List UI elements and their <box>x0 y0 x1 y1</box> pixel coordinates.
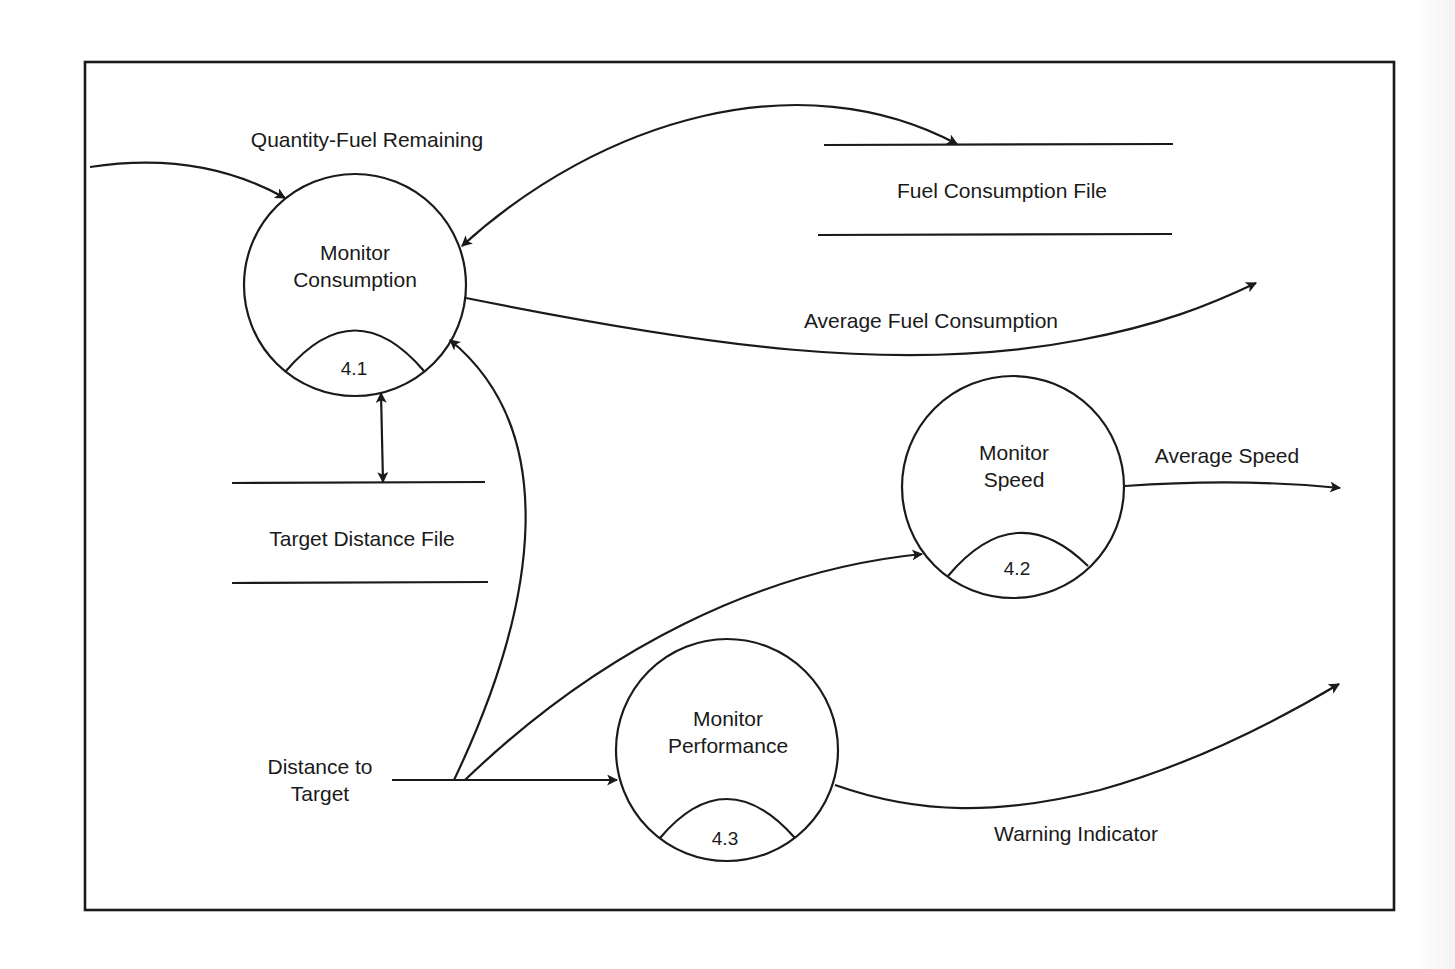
flow-label: Quantity-Fuel Remaining <box>251 128 483 151</box>
process-number: 4.2 <box>1004 558 1030 579</box>
flow-label-line1: Distance to <box>267 755 372 778</box>
datastore-top-line <box>824 144 1173 145</box>
process-label-line2: Speed <box>984 468 1045 491</box>
flow-quantity-fuel-remaining[interactable]: Quantity-Fuel Remaining <box>90 128 483 198</box>
datastore-bottom-line <box>232 582 488 583</box>
flow-warning-indicator[interactable]: Warning Indicator <box>835 684 1339 845</box>
datastore-fuel-consumption-file[interactable]: Fuel Consumption File <box>818 144 1173 235</box>
process-label-line1: Monitor <box>693 707 763 730</box>
flow-average-fuel-consumption[interactable]: Average Fuel Consumption <box>466 283 1256 355</box>
flow-arrow-to-4-1 <box>450 340 526 780</box>
process-label-line1: Monitor <box>979 441 1049 464</box>
process-label-line1: Monitor <box>320 241 390 264</box>
flow-arrow <box>835 684 1339 808</box>
data-flow-diagram: Monitor Consumption 4.1 Monitor Speed 4.… <box>0 0 1455 969</box>
flow-label: Average Fuel Consumption <box>804 309 1058 332</box>
flow-target-distance-exchange[interactable] <box>381 393 383 482</box>
flow-label-line2: Target <box>291 782 350 805</box>
datastore-label: Target Distance File <box>269 527 455 550</box>
flow-label: Warning Indicator <box>994 822 1158 845</box>
process-label-line2: Performance <box>668 734 788 757</box>
process-number: 4.3 <box>712 828 738 849</box>
process-monitor-speed[interactable]: Monitor Speed 4.2 <box>902 376 1124 598</box>
flow-fuel-file-exchange[interactable] <box>462 105 957 246</box>
flow-arrow <box>90 163 285 198</box>
flow-arrow <box>1125 482 1340 488</box>
process-label-line2: Consumption <box>293 268 417 291</box>
process-number: 4.1 <box>341 358 367 379</box>
datastore-bottom-line <box>818 234 1172 235</box>
flow-average-speed[interactable]: Average Speed <box>1125 444 1340 488</box>
datastore-top-line <box>232 482 485 483</box>
datastore-label: Fuel Consumption File <box>897 179 1107 202</box>
flow-arrow-bidirectional <box>381 393 383 482</box>
flow-distance-to-target[interactable]: Distance to Target <box>267 340 922 805</box>
diagram-frame <box>85 62 1394 910</box>
process-monitor-consumption[interactable]: Monitor Consumption 4.1 <box>244 174 466 396</box>
flow-label: Average Speed <box>1155 444 1299 467</box>
flow-arrow-bidirectional <box>462 105 957 246</box>
datastore-target-distance-file[interactable]: Target Distance File <box>232 482 488 583</box>
page-edge-shadow <box>1415 0 1455 969</box>
process-monitor-performance[interactable]: Monitor Performance 4.3 <box>616 639 838 861</box>
